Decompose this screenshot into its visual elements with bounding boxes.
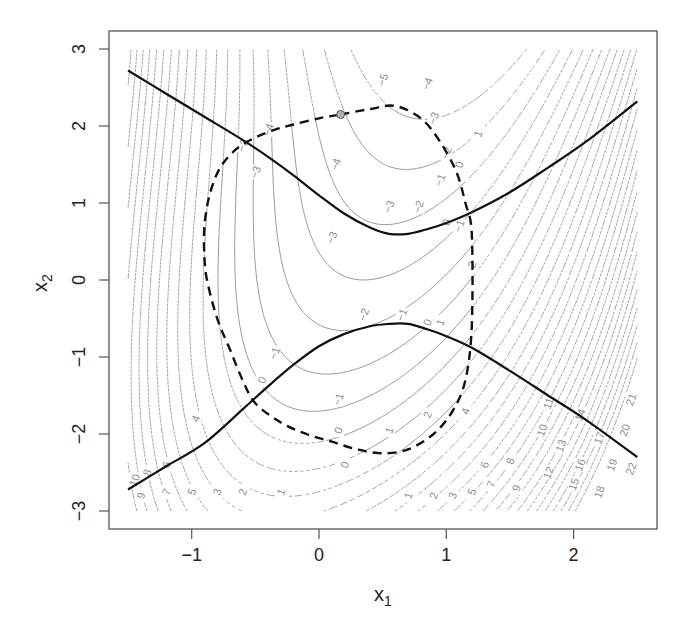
y-tick-label: −1 xyxy=(69,347,89,368)
contour-line-dashed xyxy=(553,307,637,511)
x-axis-label: x1 xyxy=(374,583,392,609)
y-tick-label: −3 xyxy=(69,501,89,522)
solid-boundary-curve xyxy=(128,323,637,489)
contour-line-dashed xyxy=(324,49,545,157)
x-axis: −1012 xyxy=(181,529,578,565)
plot-frame xyxy=(109,31,657,529)
contour-plot: −5−4−4−4−3−3−3−3−3−2−2−2−1−1−1−1−1000000… xyxy=(0,0,687,633)
y-tick-label: 2 xyxy=(69,121,89,131)
contour-line-dashed xyxy=(284,49,573,216)
y-axis-label: x2 xyxy=(29,274,55,292)
x-tick-label: −1 xyxy=(181,545,202,565)
y-tick-label: 3 xyxy=(69,44,89,54)
x-tick-label: 2 xyxy=(569,545,579,565)
boundary-curves xyxy=(128,71,637,490)
x-tick-label: 0 xyxy=(314,545,324,565)
x-tick-label: 1 xyxy=(441,545,451,565)
marked-point xyxy=(337,110,345,118)
y-tick-label: 0 xyxy=(69,275,89,285)
contour-line-dashed xyxy=(203,49,617,472)
y-tick-label: −2 xyxy=(69,424,89,445)
y-axis: −3−2−10123 xyxy=(69,44,109,521)
contour-line-solid xyxy=(235,149,473,411)
y-tick-label: 1 xyxy=(69,198,89,208)
